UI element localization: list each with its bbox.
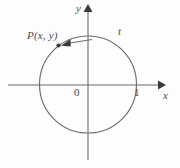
arc-parameter-label: t	[118, 26, 121, 37]
y-axis-label: y	[76, 3, 81, 14]
unit-circle-svg	[0, 0, 180, 168]
point-p-label: P(x, y)	[27, 30, 58, 41]
point-p-marker	[56, 43, 60, 47]
x-axis-label: x	[163, 90, 168, 101]
unit-tick-label: 1	[134, 87, 140, 98]
y-axis-arrowhead	[84, 4, 93, 12]
unit-circle-figure: y x t P(x, y) 0 1	[0, 0, 180, 168]
origin-label: 0	[74, 87, 80, 98]
